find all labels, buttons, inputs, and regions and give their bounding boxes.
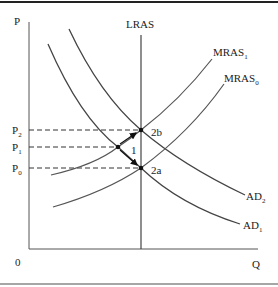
point-1	[116, 145, 121, 150]
lras-label: LRAS	[126, 18, 154, 30]
point-1-label: 1	[131, 144, 137, 156]
point-2a-label: 2a	[151, 164, 162, 176]
origin-label: 0	[15, 256, 21, 268]
mras1-label: MRAS1	[213, 46, 248, 61]
ad-as-diagram: P Q 0 LRAS MRAS1 MRAS0 AD2 AD1 P2 P1 P0 …	[0, 0, 278, 287]
p1-label: P1	[12, 141, 22, 156]
p0-label: P0	[12, 162, 22, 177]
arrow-1-to-2b	[120, 133, 136, 144]
point-2a	[139, 166, 144, 171]
p2-label: P2	[12, 124, 22, 139]
y-axis-label: P	[14, 15, 20, 27]
point-2b	[139, 128, 144, 133]
x-axis-label: Q	[252, 258, 260, 270]
mras1-curve	[51, 59, 212, 175]
mras0-label: MRAS0	[224, 72, 259, 87]
ad2-label: AD2	[246, 190, 266, 205]
ad1-label: AD1	[243, 219, 263, 234]
point-2b-label: 2b	[151, 126, 163, 138]
ad1-curve	[48, 44, 240, 224]
